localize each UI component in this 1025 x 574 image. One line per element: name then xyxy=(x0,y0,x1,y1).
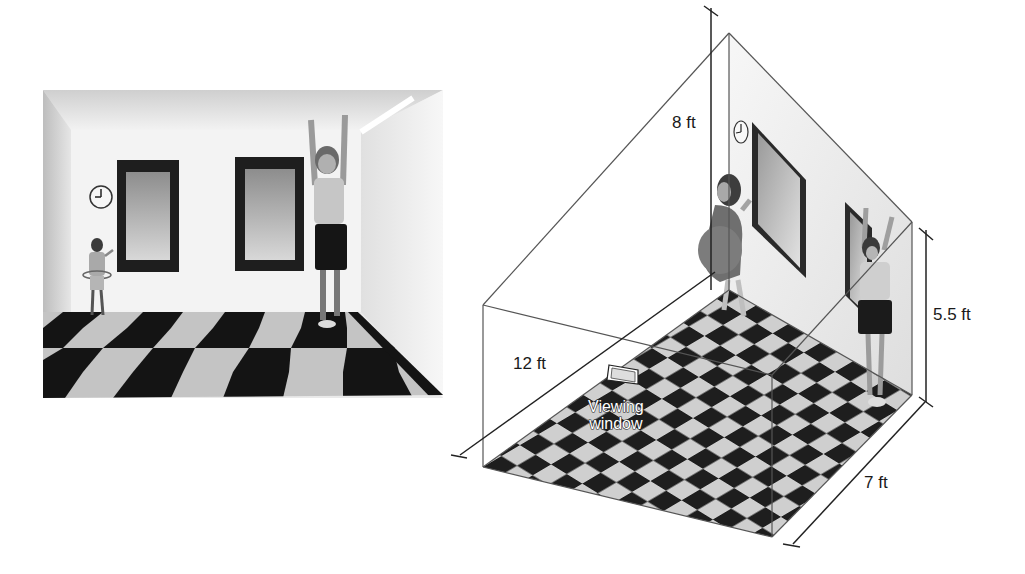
height-front-label: 5.5 ft xyxy=(933,305,971,325)
ames-room-diagram: 8 ft 5.5 ft 12 ft 7 ft Viewing window xyxy=(0,0,1025,574)
height-back-label: 8 ft xyxy=(672,113,696,133)
width-label: 7 ft xyxy=(864,473,888,493)
clock-icon xyxy=(734,121,748,143)
viewing-window-label-line1: Viewing xyxy=(588,398,644,415)
viewing-window-label: Viewing window xyxy=(588,398,644,432)
depth-label: 12 ft xyxy=(513,354,546,374)
viewing-window-label-line2: window xyxy=(588,415,644,432)
